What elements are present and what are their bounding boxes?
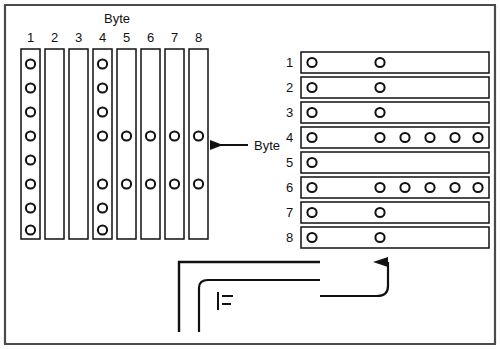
row-header-4: 4	[286, 131, 293, 144]
figure-canvas: Byte 1 2 3 4 5 6 7 8 Byte 1 2 3 4 5 6 7 …	[0, 0, 500, 349]
column-header-4: 4	[99, 31, 106, 44]
row-header-8: 8	[286, 231, 293, 244]
column-header-1: 1	[27, 31, 34, 44]
row-header-5: 5	[286, 156, 293, 169]
row-header-2: 2	[286, 81, 293, 94]
column-header-6: 6	[147, 31, 154, 44]
byte-row-strips	[301, 52, 489, 248]
column-header-5: 5	[123, 31, 130, 44]
byte-arrow-label: Byte	[254, 139, 280, 152]
diagram-svg	[0, 0, 500, 349]
tick-mark-icon	[218, 292, 233, 310]
column-header-7: 7	[171, 31, 178, 44]
row-header-1: 1	[286, 56, 293, 69]
column-header-8: 8	[195, 31, 202, 44]
byte-top-title: Byte	[104, 12, 130, 25]
row-header-3: 3	[286, 106, 293, 119]
column-header-3: 3	[75, 31, 82, 44]
column-header-2: 2	[51, 31, 58, 44]
connector-routing	[179, 262, 388, 332]
byte-column-strips	[21, 49, 208, 239]
row-header-6: 6	[286, 181, 293, 194]
row-header-7: 7	[286, 206, 293, 219]
